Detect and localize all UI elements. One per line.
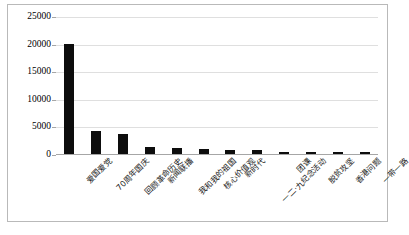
bar-slot[interactable] (137, 16, 164, 154)
y-axis-tick-label: 0 (46, 150, 51, 160)
category-label: 爱国爱党 (86, 157, 114, 185)
bar[interactable] (145, 147, 155, 154)
bar-slot[interactable] (190, 16, 217, 154)
y-axis-tick-label: 25000 (27, 12, 51, 22)
bar-slot[interactable] (298, 16, 325, 154)
bar-slot[interactable] (163, 16, 190, 154)
bar-slot[interactable] (217, 16, 244, 154)
y-axis-tick-mark (52, 155, 56, 156)
bar-slot[interactable] (83, 16, 110, 154)
plot-area: 0500010000150002000025000 (56, 17, 378, 155)
category-label: 脱贫攻坚 (327, 157, 355, 185)
category-axis-line (56, 154, 378, 155)
bar-slot[interactable] (110, 16, 137, 154)
category-label: 香港问题 (354, 157, 382, 185)
chart-frame: 0500010000150002000025000 爱国爱党70周年国庆回顾革命… (7, 4, 388, 222)
bar-slot[interactable] (56, 16, 83, 154)
y-axis-tick-label: 20000 (27, 40, 51, 50)
bar-slot[interactable] (244, 16, 271, 154)
bar-slot[interactable] (324, 16, 351, 154)
bar-slot[interactable] (351, 16, 378, 154)
category-label: 一带一路 (381, 157, 409, 185)
y-axis-tick-label: 15000 (27, 67, 51, 77)
bar[interactable] (91, 131, 101, 154)
bar[interactable] (118, 134, 128, 154)
category-axis-labels: 爱国爱党70周年国庆回顾革命历史新闻联播我和我的祖国核心价值观新时代一二·九纪念… (56, 157, 378, 221)
bar-slot[interactable] (271, 16, 298, 154)
bar[interactable] (64, 44, 74, 154)
y-axis-tick-label: 5000 (32, 123, 51, 133)
y-axis-tick-label: 10000 (27, 95, 51, 105)
